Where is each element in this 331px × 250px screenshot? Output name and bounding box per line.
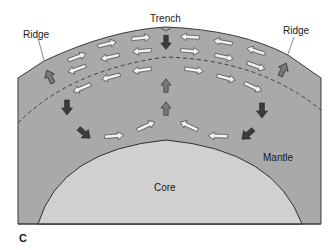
core-label: Core xyxy=(154,182,176,193)
panel-label: C xyxy=(19,232,27,244)
ridge-right-label: Ridge xyxy=(283,25,310,36)
mantle-label: Mantle xyxy=(263,152,293,163)
ridge-left-label: Ridge xyxy=(23,29,50,40)
ridge-right-leader xyxy=(288,37,294,54)
mantle-convection-diagram: Trench Ridge Ridge Mantle Core C xyxy=(0,0,331,250)
ridge-left-leader xyxy=(38,38,44,60)
trench-label: Trench xyxy=(150,13,181,24)
